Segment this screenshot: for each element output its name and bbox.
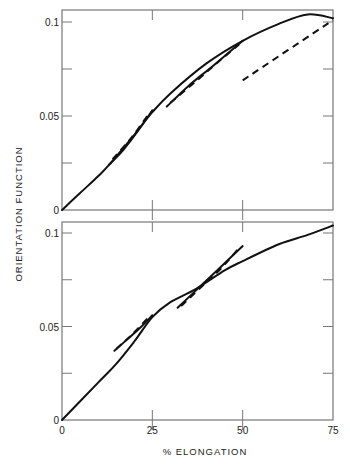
- panel-top: 00.050.1: [40, 10, 333, 220]
- series-main-stretch: [62, 226, 333, 421]
- plot-frame: [62, 10, 333, 210]
- series-main-stretch: [62, 14, 333, 210]
- x-tick-label: 50: [237, 425, 249, 436]
- x-axis-label: % ELONGATION: [163, 446, 248, 457]
- series-loop2-return: [167, 41, 243, 107]
- y-tick-label: 0.05: [40, 111, 60, 122]
- y-tick-label: 0.05: [40, 322, 60, 333]
- series-loop1-dashed: [113, 114, 149, 159]
- y-tick-label: 0: [53, 205, 59, 216]
- y-tick-label: 0.1: [45, 228, 59, 239]
- x-tick-label: 75: [327, 425, 339, 436]
- x-tick-label: 0: [59, 425, 65, 436]
- y-axis-label: ORIENTATION FUNCTION: [13, 146, 24, 281]
- x-tick-label: 25: [147, 425, 159, 436]
- panel-bottom: 00.050.10255075: [40, 222, 339, 436]
- orientation-chart: 00.050.100.050.10255075 ORIENTATION FUNC…: [0, 0, 350, 470]
- series-final-dashed: [243, 20, 333, 80]
- y-tick-label: 0.1: [45, 17, 59, 28]
- plot-frame: [62, 222, 333, 420]
